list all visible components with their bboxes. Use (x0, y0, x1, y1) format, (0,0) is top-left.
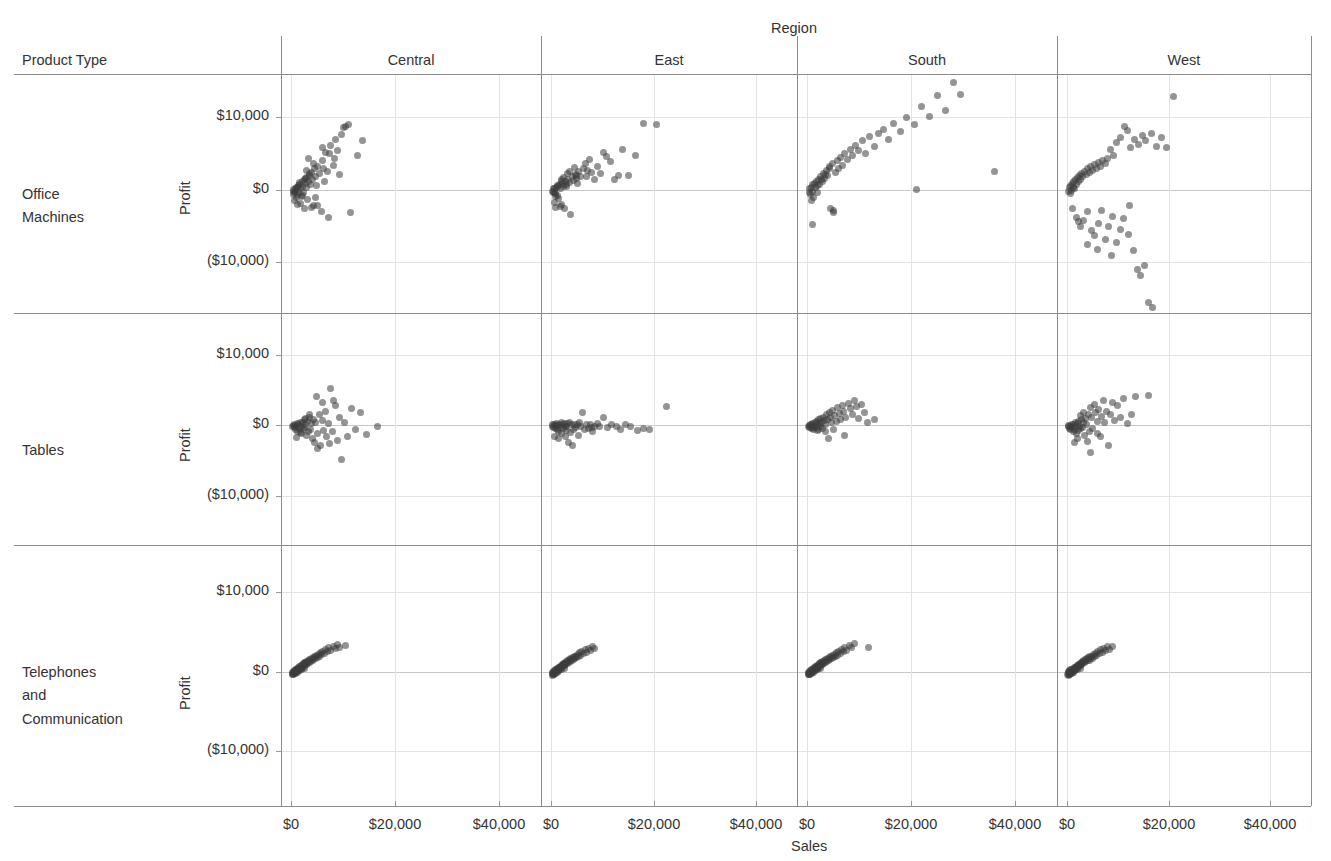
data-point[interactable] (1148, 130, 1155, 137)
data-point[interactable] (596, 423, 603, 430)
data-point[interactable] (625, 172, 632, 179)
data-point[interactable] (579, 409, 586, 416)
data-point[interactable] (1124, 127, 1131, 134)
data-point[interactable] (301, 665, 308, 672)
data-point[interactable] (903, 114, 910, 121)
data-point[interactable] (583, 173, 590, 180)
data-point[interactable] (640, 120, 647, 127)
data-point[interactable] (314, 445, 321, 452)
data-point[interactable] (607, 158, 614, 165)
data-point[interactable] (880, 126, 887, 133)
data-point[interactable] (323, 433, 330, 440)
data-point[interactable] (312, 194, 319, 201)
data-point[interactable] (1163, 144, 1170, 151)
data-point[interactable] (991, 168, 998, 175)
data-point[interactable] (871, 416, 878, 423)
data-point[interactable] (646, 426, 653, 433)
data-point[interactable] (865, 644, 872, 651)
data-point[interactable] (325, 214, 332, 221)
data-point[interactable] (1101, 419, 1108, 426)
data-point[interactable] (1117, 226, 1124, 233)
data-point[interactable] (1087, 449, 1094, 456)
data-point[interactable] (310, 160, 317, 167)
data-point[interactable] (814, 189, 821, 196)
data-point[interactable] (327, 385, 334, 392)
data-point[interactable] (1091, 232, 1098, 239)
data-point[interactable] (1084, 438, 1091, 445)
data-point[interactable] (830, 207, 837, 214)
data-point[interactable] (336, 171, 343, 178)
data-point[interactable] (1117, 414, 1124, 421)
data-point[interactable] (1075, 218, 1082, 225)
data-point[interactable] (809, 221, 816, 228)
data-point[interactable] (825, 435, 832, 442)
data-point[interactable] (822, 171, 829, 178)
data-point[interactable] (1102, 236, 1109, 243)
data-point[interactable] (1141, 262, 1148, 269)
data-point[interactable] (344, 433, 351, 440)
data-point[interactable] (808, 197, 815, 204)
data-point[interactable] (374, 423, 381, 430)
data-point[interactable] (557, 203, 564, 210)
data-point[interactable] (574, 180, 581, 187)
data-point[interactable] (1094, 246, 1101, 253)
data-point[interactable] (1117, 134, 1124, 141)
data-point[interactable] (1108, 252, 1115, 259)
data-point[interactable] (561, 665, 568, 672)
data-point[interactable] (306, 411, 313, 418)
data-point[interactable] (329, 428, 336, 435)
data-point[interactable] (588, 424, 595, 431)
data-point[interactable] (1084, 241, 1091, 248)
data-point[interactable] (299, 192, 306, 199)
data-point[interactable] (1120, 215, 1127, 222)
data-point[interactable] (851, 640, 858, 647)
data-point[interactable] (918, 103, 925, 110)
data-point[interactable] (1095, 220, 1102, 227)
data-point[interactable] (348, 405, 355, 412)
data-point[interactable] (653, 121, 660, 128)
data-point[interactable] (552, 193, 559, 200)
data-point[interactable] (586, 156, 593, 163)
data-point[interactable] (1125, 231, 1132, 238)
data-point[interactable] (334, 147, 341, 154)
data-point[interactable] (1170, 93, 1177, 100)
data-point[interactable] (615, 172, 622, 179)
data-point[interactable] (563, 183, 570, 190)
data-point[interactable] (321, 178, 328, 185)
data-point[interactable] (594, 163, 601, 170)
data-point[interactable] (341, 419, 348, 426)
data-point[interactable] (318, 208, 325, 215)
data-point[interactable] (597, 170, 604, 177)
data-point[interactable] (569, 442, 576, 449)
data-point[interactable] (319, 157, 326, 164)
data-point[interactable] (1069, 205, 1076, 212)
data-point[interactable] (1109, 643, 1116, 650)
data-point[interactable] (306, 170, 313, 177)
data-point[interactable] (841, 432, 848, 439)
data-point[interactable] (1113, 239, 1120, 246)
data-point[interactable] (600, 414, 607, 421)
data-point[interactable] (913, 186, 920, 193)
data-point[interactable] (1135, 141, 1142, 148)
data-point[interactable] (357, 409, 364, 416)
data-point[interactable] (1094, 430, 1101, 437)
data-point[interactable] (862, 150, 869, 157)
data-point[interactable] (858, 401, 865, 408)
data-point[interactable] (1071, 439, 1078, 446)
data-point[interactable] (342, 642, 349, 649)
data-point[interactable] (1142, 137, 1149, 144)
data-point[interactable] (950, 79, 957, 86)
data-point[interactable] (1127, 144, 1134, 151)
data-point[interactable] (326, 440, 333, 447)
data-point[interactable] (839, 162, 846, 169)
data-point[interactable] (332, 402, 339, 409)
data-point[interactable] (926, 113, 933, 120)
data-point[interactable] (1124, 420, 1131, 427)
data-point[interactable] (885, 136, 892, 143)
data-point[interactable] (347, 209, 354, 216)
data-point[interactable] (1100, 397, 1107, 404)
data-point[interactable] (1153, 143, 1160, 150)
data-point[interactable] (563, 423, 570, 430)
data-point[interactable] (957, 91, 964, 98)
data-point[interactable] (575, 432, 582, 439)
